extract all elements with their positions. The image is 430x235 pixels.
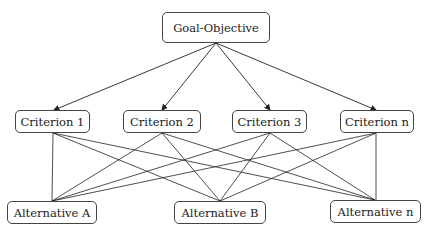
criteria-alternative-links xyxy=(52,133,376,201)
alternative-label: Alternative n xyxy=(338,205,414,219)
criterion-node-3: Criterion 3 xyxy=(232,110,307,133)
criterion-node-n: Criterion n xyxy=(340,110,414,133)
criterion-node-1: Criterion 1 xyxy=(15,110,90,133)
criterion-node-2: Criterion 2 xyxy=(123,110,201,133)
alternative-node-b: Alternative B xyxy=(174,201,266,224)
goal-label: Goal-Objective xyxy=(173,21,259,35)
criterion-label: Criterion 2 xyxy=(130,115,194,129)
goal-node: Goal-Objective xyxy=(162,12,270,43)
ahp-hierarchy-diagram: Goal-Objective Criterion 1 Criterion 2 C… xyxy=(0,0,430,235)
alternative-label: Alternative B xyxy=(182,206,259,220)
goal-arrows xyxy=(54,43,376,110)
criterion-label: Criterion 1 xyxy=(21,115,85,129)
alternative-label: Alternative A xyxy=(14,206,91,220)
criterion-label: Criterion n xyxy=(345,115,409,129)
alternative-node-n: Alternative n xyxy=(330,200,421,223)
alternative-node-a: Alternative A xyxy=(7,201,97,224)
criterion-label: Criterion 3 xyxy=(238,115,302,129)
